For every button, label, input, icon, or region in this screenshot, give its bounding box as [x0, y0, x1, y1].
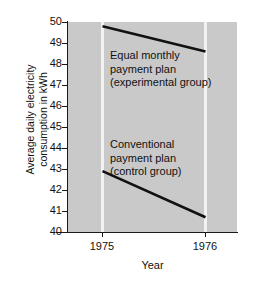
- annotation-control-line-2: payment plan: [110, 152, 182, 166]
- y-tick-48: [62, 64, 67, 65]
- y-tick-47: [62, 85, 67, 86]
- series-line-experimental: [103, 26, 206, 51]
- y-tick-label-40: 40: [40, 226, 62, 237]
- annotation-experimental-line-2: payment plan: [110, 63, 212, 77]
- y-axis-title-line-1: Average daily electricity: [24, 22, 37, 218]
- annotation-experimental: Equal monthly payment plan (experimental…: [110, 49, 212, 90]
- y-tick-49: [62, 43, 67, 44]
- y-tick-44: [62, 148, 67, 149]
- x-axis-line: [56, 232, 238, 233]
- x-tick-1975: [102, 232, 103, 237]
- x-tick-1976: [205, 232, 206, 237]
- y-tick-50: [62, 22, 67, 23]
- line-chart: Equal monthly payment plan (experimental…: [0, 0, 253, 282]
- y-tick-40: [62, 232, 67, 233]
- annotation-control-line-1: Conventional: [110, 138, 182, 152]
- y-axis-line: [67, 21, 68, 233]
- plot-area: Equal monthly payment plan (experimental…: [68, 22, 237, 232]
- x-tick-label-1975: 1975: [79, 240, 125, 252]
- x-axis-title: Year: [68, 259, 237, 271]
- x-tick-label-1976: 1976: [182, 240, 228, 252]
- y-tick-45: [62, 127, 67, 128]
- y-axis-title: Average daily electricity consumption in…: [24, 22, 49, 218]
- annotation-control-line-3: (control group): [110, 165, 182, 179]
- y-tick-42: [62, 190, 67, 191]
- annotation-experimental-line-3: (experimental group): [110, 76, 212, 90]
- annotation-control: Conventional payment plan (control group…: [110, 138, 182, 179]
- y-tick-46: [62, 106, 67, 107]
- y-tick-43: [62, 169, 67, 170]
- y-tick-41: [62, 211, 67, 212]
- annotation-experimental-line-1: Equal monthly: [110, 49, 212, 63]
- y-axis-title-line-2: consumption in kWh: [36, 22, 49, 218]
